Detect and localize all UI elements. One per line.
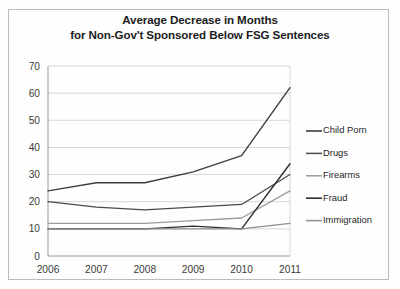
legend-label-drugs: Drugs xyxy=(323,147,348,158)
legend-label-fraud: Fraud xyxy=(323,192,348,203)
y-tick-label-20: 20 xyxy=(29,196,41,207)
chart-figure: Average Decrease in Months for Non-Gov't… xyxy=(0,0,400,289)
x-tick-label-2009: 2009 xyxy=(182,264,205,275)
y-tick-label-50: 50 xyxy=(29,115,41,126)
x-tick-label-2006: 2006 xyxy=(37,264,60,275)
x-tick-label-2010: 2010 xyxy=(230,264,253,275)
y-tick-label-30: 30 xyxy=(29,169,41,180)
y-axis-tick-labels: 010203040506070 xyxy=(29,61,41,262)
series-line-firearms xyxy=(48,191,290,224)
data-series-group xyxy=(48,88,290,229)
x-tick-label-2008: 2008 xyxy=(133,264,156,275)
legend-label-child-porn: Child Porn xyxy=(323,124,367,135)
x-tick-label-2007: 2007 xyxy=(85,264,108,275)
chart-legend: Child PornDrugsFirearmsFraudImmigration xyxy=(306,124,372,225)
y-tick-label-0: 0 xyxy=(34,251,40,262)
y-tick-label-70: 70 xyxy=(29,61,41,72)
legend-label-firearms: Firearms xyxy=(323,169,360,180)
x-tick-label-2011: 2011 xyxy=(279,264,301,275)
y-tick-label-60: 60 xyxy=(29,88,41,99)
y-tick-label-40: 40 xyxy=(29,142,41,153)
legend-label-immigration: Immigration xyxy=(323,214,372,225)
y-tick-label-10: 10 xyxy=(29,223,41,234)
series-line-child-porn xyxy=(48,88,290,191)
line-chart-plot: 010203040506070 200620072008200920102011… xyxy=(0,0,400,289)
x-axis-tick-labels: 200620072008200920102011 xyxy=(37,264,302,275)
series-line-drugs xyxy=(48,175,290,210)
